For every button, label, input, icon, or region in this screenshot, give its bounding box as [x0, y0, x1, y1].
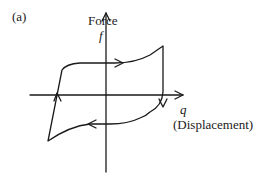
- x-axis-label: (Displacement): [173, 118, 253, 131]
- diagram-svg: [0, 0, 266, 178]
- y-axis-label: Force: [88, 14, 118, 27]
- panel-label: (a): [12, 10, 26, 23]
- y-axis-symbol: f: [99, 29, 103, 42]
- hysteresis-diagram: (a) Force f q (Displacement): [0, 0, 266, 178]
- x-axis-symbol: q: [180, 103, 187, 116]
- left-direction-arrow-icon: [54, 93, 61, 101]
